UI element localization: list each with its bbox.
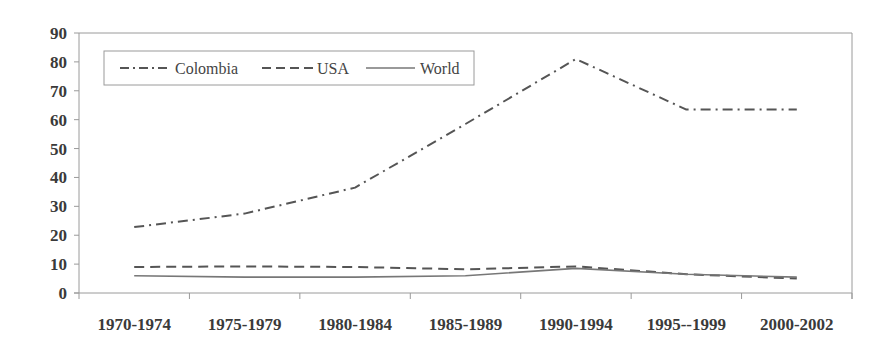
x-tick-label: 1985-1989: [429, 315, 503, 334]
y-tick-label: 30: [50, 197, 67, 216]
y-tick-label: 20: [50, 226, 67, 245]
series-group: [134, 59, 797, 279]
y-tick-label: 60: [50, 111, 67, 130]
y-tick-label: 40: [50, 168, 67, 187]
y-tick-label: 0: [59, 284, 68, 303]
x-tick-label: 1980-1984: [318, 315, 392, 334]
x-tick-label: 1970-1974: [97, 315, 171, 334]
y-tick-label: 10: [50, 255, 67, 274]
legend-label-usa: USA: [317, 60, 349, 77]
y-tick-label: 70: [50, 82, 67, 101]
y-tick-label: 80: [50, 53, 67, 72]
legend-label-colombia: Colombia: [175, 60, 238, 77]
legend: Colombia USA World: [104, 51, 474, 85]
x-tick-label: 1995--1999: [647, 315, 726, 334]
y-tick-label: 50: [50, 140, 67, 159]
line-chart: 01020304050607080901970-19741975-1979198…: [0, 0, 892, 350]
x-tick-label: 2000-2002: [760, 315, 834, 334]
series-line-world: [134, 268, 797, 277]
legend-label-world: World: [420, 60, 460, 77]
x-tick-label: 1975-1979: [208, 315, 282, 334]
y-tick-label: 90: [50, 24, 67, 43]
chart-canvas: 01020304050607080901970-19741975-1979198…: [0, 0, 892, 350]
x-tick-label: 1990-1994: [539, 315, 613, 334]
